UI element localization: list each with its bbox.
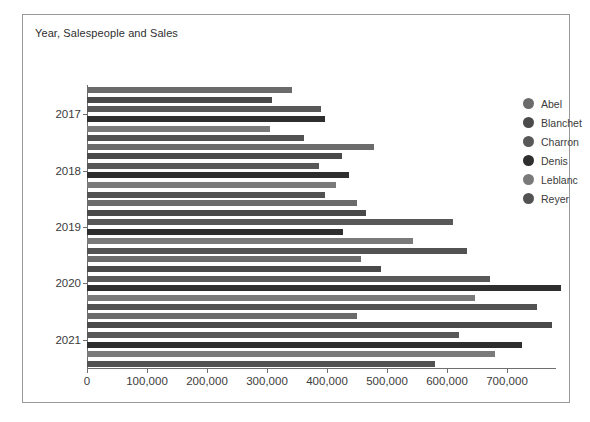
bar-2019-denis[interactable] — [87, 229, 343, 235]
legend-item-reyer[interactable]: Reyer — [523, 192, 582, 205]
bar-2021-denis[interactable] — [87, 342, 522, 348]
bar-2017-reyer[interactable] — [87, 135, 304, 141]
x-axis-tick-label-6: 600,000 — [426, 375, 468, 387]
x-axis-tick-mark-3 — [267, 368, 268, 373]
bar-2020-charron[interactable] — [87, 276, 490, 282]
x-axis-tick-label-7: 700,000 — [486, 375, 528, 387]
legend-swatch-icon — [523, 136, 534, 147]
x-axis-tick-mark-0 — [87, 368, 88, 373]
legend-label: Denis — [541, 155, 568, 167]
bar-2021-blanchet[interactable] — [87, 322, 552, 328]
bar-2021-charron[interactable] — [87, 332, 459, 338]
legend-item-abel[interactable]: Abel — [523, 97, 582, 110]
legend-label: Reyer — [541, 193, 569, 205]
bar-2019-abel[interactable] — [87, 200, 357, 206]
y-axis-tick-label-2020: 2020 — [55, 277, 81, 289]
bar-2017-charron[interactable] — [87, 106, 321, 112]
bar-2018-blanchet[interactable] — [87, 153, 342, 159]
bar-2021-leblanc[interactable] — [87, 351, 495, 357]
bar-2020-blanchet[interactable] — [87, 266, 381, 272]
legend-label: Abel — [541, 98, 562, 110]
bar-2018-leblanc[interactable] — [87, 182, 336, 188]
x-axis-tick-mark-7 — [507, 368, 508, 373]
legend-swatch-icon — [523, 117, 534, 128]
legend-swatch-icon — [523, 174, 534, 185]
x-axis-tick-label-3: 300,000 — [246, 375, 288, 387]
x-axis-tick-label-0: 0 — [84, 375, 90, 387]
bar-2021-reyer[interactable] — [87, 361, 435, 367]
x-axis-tick-mark-4 — [327, 368, 328, 373]
legend-item-charron[interactable]: Charron — [523, 135, 582, 148]
bar-2019-leblanc[interactable] — [87, 238, 413, 244]
chart-title: Year, Salespeople and Sales — [35, 27, 178, 39]
plot-area: 20172018201920202021 — [87, 85, 555, 367]
legend-item-denis[interactable]: Denis — [523, 154, 582, 167]
y-axis-tick-label-2018: 2018 — [55, 165, 81, 177]
x-axis-tick-label-5: 500,000 — [366, 375, 408, 387]
x-axis-line — [87, 368, 556, 369]
bar-2020-leblanc[interactable] — [87, 295, 475, 301]
y-axis-tick-label-2021: 2021 — [55, 334, 81, 346]
x-axis-tick-label-4: 400,000 — [306, 375, 348, 387]
bar-2018-charron[interactable] — [87, 163, 319, 169]
legend-label: Charron — [541, 136, 579, 148]
bar-2020-abel[interactable] — [87, 256, 361, 262]
legend-item-blanchet[interactable]: Blanchet — [523, 116, 582, 129]
bar-2021-abel[interactable] — [87, 313, 357, 319]
legend-item-leblanc[interactable]: Leblanc — [523, 173, 582, 186]
bar-2019-reyer[interactable] — [87, 248, 467, 254]
bar-2019-blanchet[interactable] — [87, 210, 366, 216]
bar-2018-reyer[interactable] — [87, 192, 325, 198]
legend-swatch-icon — [523, 98, 534, 109]
legend-label: Blanchet — [541, 117, 582, 129]
bar-2018-abel[interactable] — [87, 144, 374, 150]
x-axis-tick-mark-1 — [147, 368, 148, 373]
legend-swatch-icon — [523, 193, 534, 204]
bar-2019-charron[interactable] — [87, 219, 453, 225]
y-axis-tick-label-2017: 2017 — [55, 108, 81, 120]
x-axis-tick-mark-5 — [387, 368, 388, 373]
x-axis-tick-label-2: 200,000 — [186, 375, 228, 387]
chart-container: Year, Salespeople and Sales 201720182019… — [22, 14, 570, 403]
bar-2017-blanchet[interactable] — [87, 97, 272, 103]
bar-2017-leblanc[interactable] — [87, 126, 270, 132]
bar-2020-denis[interactable] — [87, 285, 561, 291]
bar-2017-abel[interactable] — [87, 87, 292, 93]
legend-swatch-icon — [523, 155, 534, 166]
chart-legend: AbelBlanchetCharronDenisLeblancReyer — [523, 97, 582, 205]
bar-2018-denis[interactable] — [87, 172, 349, 178]
x-axis-tick-mark-6 — [447, 368, 448, 373]
legend-label: Leblanc — [541, 174, 578, 186]
bar-2020-reyer[interactable] — [87, 304, 537, 310]
y-axis-tick-label-2019: 2019 — [55, 221, 81, 233]
x-axis-tick-mark-2 — [207, 368, 208, 373]
bar-2017-denis[interactable] — [87, 116, 325, 122]
x-axis-tick-label-1: 100,000 — [126, 375, 168, 387]
